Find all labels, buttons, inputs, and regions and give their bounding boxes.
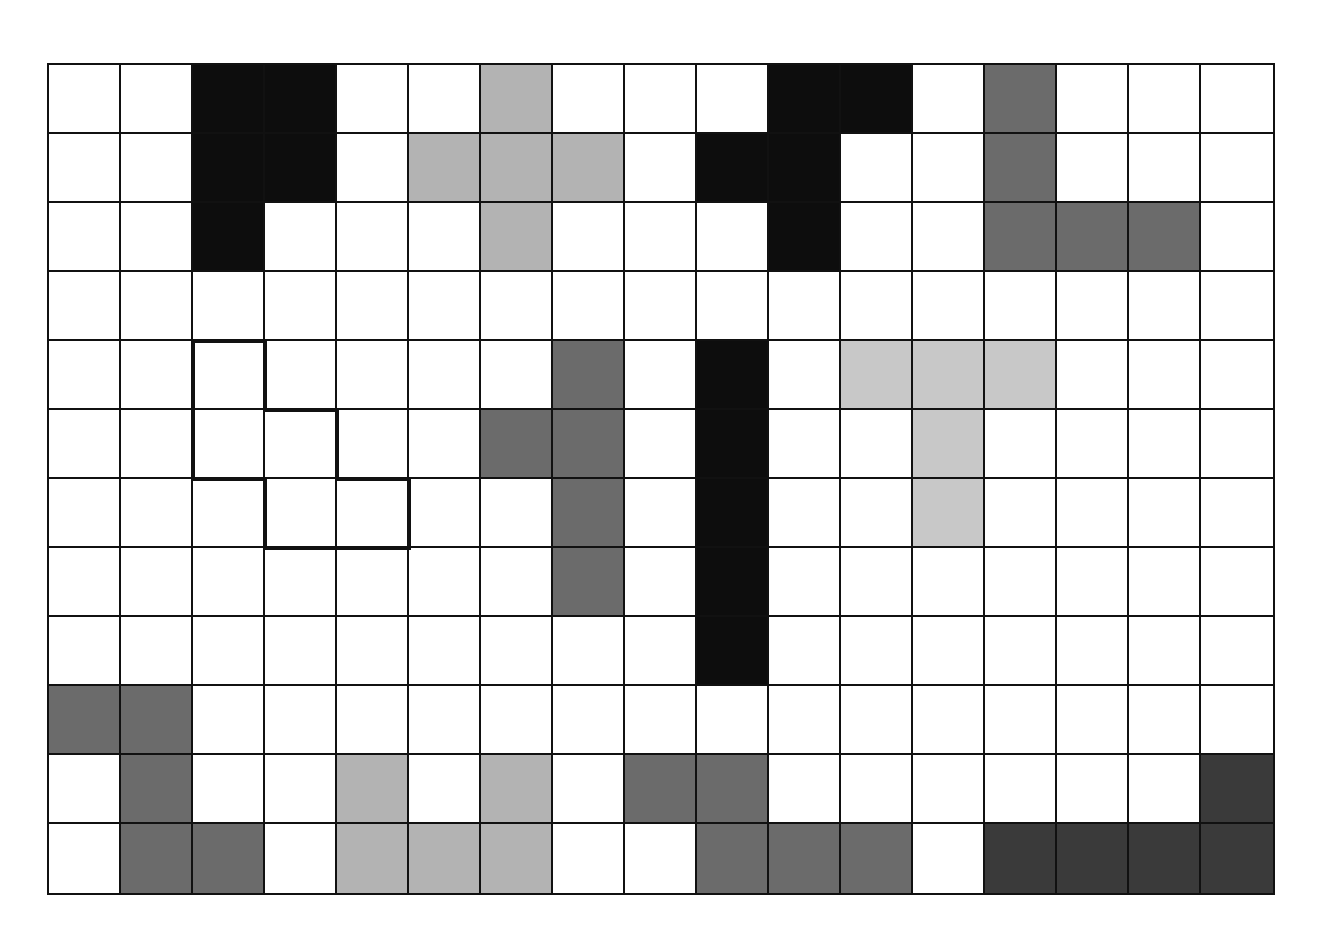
grid-cell [49,617,121,686]
grid-cell [409,341,481,410]
grid-cell [985,479,1057,548]
grid-cell [1057,479,1129,548]
grid-cell [265,824,337,893]
grid-cell [409,65,481,134]
grid-cell [553,341,625,410]
grid-cell [553,410,625,479]
grid-cell [481,548,553,617]
grid-cell [841,410,913,479]
grid-cell [409,272,481,341]
grid-cell [193,341,265,410]
grid-cell [481,410,553,479]
grid-cell [49,272,121,341]
grid-cell [625,824,697,893]
grid-cell [1129,203,1201,272]
grid-cell [1129,755,1201,824]
grid-cell [337,410,409,479]
grid-cell [481,65,553,134]
grid-cell [769,548,841,617]
grid-cell [121,755,193,824]
grid-cell [193,65,265,134]
grid-cell [841,65,913,134]
grid-cell [49,548,121,617]
grid-cell [265,341,337,410]
grid-cell [265,272,337,341]
grid-cell [985,272,1057,341]
grid-cell [1129,548,1201,617]
grid-cell [913,824,985,893]
grid-cell [121,65,193,134]
grid-cell [913,65,985,134]
grid-cell [1057,824,1129,893]
grid-cell [1201,617,1273,686]
grid-cell [409,755,481,824]
grid-cell [1129,686,1201,755]
grid-cell [121,410,193,479]
grid-cell [121,479,193,548]
grid-cell [481,341,553,410]
grid-cell [121,272,193,341]
grid-cell [1201,203,1273,272]
grid-cell [409,617,481,686]
grid-cell [193,272,265,341]
grid-cell [697,272,769,341]
grid-cell [841,479,913,548]
grid-cell [769,686,841,755]
grid-cell [49,203,121,272]
grid-cell [553,617,625,686]
grid-cell [265,65,337,134]
grid-cell [913,203,985,272]
grid-cell [1129,341,1201,410]
grid-cell [409,410,481,479]
grid-cell [121,824,193,893]
grid-cell [1201,479,1273,548]
grid-cell [409,134,481,203]
grid-cell [841,272,913,341]
grid-cell [193,134,265,203]
grid-cell [409,686,481,755]
grid-cell [1201,824,1273,893]
grid-cell [985,410,1057,479]
grid-cell [49,134,121,203]
grid-cell [841,548,913,617]
grid-cell [1129,617,1201,686]
grid-cell [1129,65,1201,134]
grid-cell [913,686,985,755]
grid-cell [553,65,625,134]
grid-cell [769,272,841,341]
grid-cell [337,824,409,893]
grid-cell [265,686,337,755]
grid-cell [553,824,625,893]
grid-cell [841,203,913,272]
grid-cell [841,134,913,203]
grid-cell [625,272,697,341]
grid-cell [481,617,553,686]
grid-cell [49,479,121,548]
grid-cell [49,686,121,755]
grid-cell [121,617,193,686]
grid-cell [1129,134,1201,203]
grid-cell [553,548,625,617]
grid-cell [409,548,481,617]
grid-cell [553,134,625,203]
grid-cell [625,686,697,755]
grid-cell [337,479,409,548]
grid-cell [121,341,193,410]
grid-cell [1057,410,1129,479]
grid-cell [769,755,841,824]
grid-cell [697,686,769,755]
grid-cell [913,272,985,341]
grid-cell [985,755,1057,824]
grid-cell [697,134,769,203]
grid-cell [1129,479,1201,548]
grid-cell [1201,341,1273,410]
grid-cell [337,203,409,272]
grid-cell [193,203,265,272]
grid-cell [193,686,265,755]
grid-cell [193,410,265,479]
grid-cell [553,755,625,824]
grid-cell [913,548,985,617]
grid-cell [697,65,769,134]
grid-cell [625,548,697,617]
grid-cell [337,617,409,686]
